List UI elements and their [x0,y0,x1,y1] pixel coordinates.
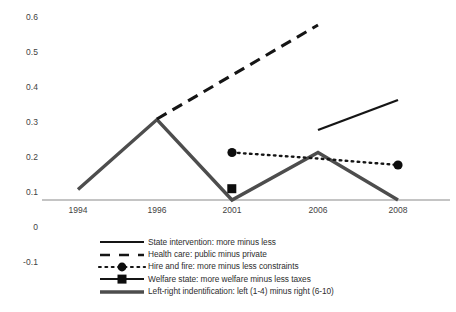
y-tick-label-0.3: 0.3 [8,117,38,127]
legend-key-solid-square-icon [96,273,148,285]
legend-label-health-care: Health care: public minus private [148,249,267,260]
legend-key-dashed-icon [96,249,148,261]
y-tick-label-0.2: 0.2 [8,152,38,162]
x-tick-label-2001: 2001 [210,205,254,215]
y-tick-label-0: 0 [8,222,38,232]
x-tick-label-1994: 1994 [56,205,100,215]
series-state-intervention-line [318,100,398,130]
legend-label-hire-and-fire: Hire and fire: more minus less constrain… [148,261,299,272]
legend-item-health-care: Health care: public minus private [96,248,396,260]
legend-item-left-right-identification: Left-right indentification: left (1-4) m… [96,286,396,298]
y-tick-label-0.5: 0.5 [8,47,38,57]
legend-key-solid-thin-icon [96,236,148,248]
legend-key-solid-thick-icon [96,286,148,298]
chart-legend: State intervention: more minus less Heal… [96,236,396,298]
series-hire-and-fire-marker [227,148,236,157]
y-tick-label-0.1: 0.1 [8,187,38,197]
legend-label-welfare-state: Welfare state: more welfare minus less t… [148,274,311,285]
series-hire-and-fire-marker [393,160,402,169]
legend-item-state-intervention: State intervention: more minus less [96,236,396,248]
legend-label-state-intervention: State intervention: more minus less [148,237,276,248]
y-tick-label--0.1: -0.1 [8,257,38,267]
series-health-care-line [157,25,318,119]
legend-item-welfare-state: Welfare state: more welfare minus less t… [96,273,396,285]
x-tick-label-2006: 2006 [296,205,340,215]
legend-label-left-right-identification: Left-right indentification: left (1-4) m… [148,286,334,297]
series-welfare-state-marker [227,184,236,193]
legend-key-dotted-circle-icon [96,261,148,273]
y-tick-label-0.6: 0.6 [8,12,38,22]
chart-container: 0.6 0.5 0.4 0.3 0.2 0.1 0 -0.1 1994 1996… [0,0,456,312]
legend-item-hire-and-fire: Hire and fire: more minus less constrain… [96,261,396,273]
series-left-right-identification-line [78,120,398,201]
x-tick-label-1996: 1996 [135,205,179,215]
x-tick-label-2008: 2008 [376,205,420,215]
y-tick-label-0.4: 0.4 [8,82,38,92]
